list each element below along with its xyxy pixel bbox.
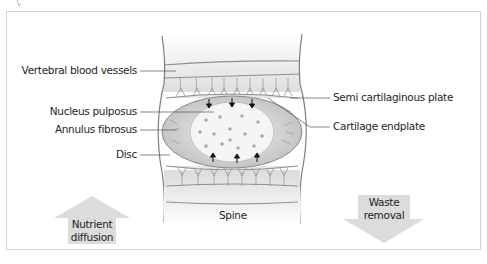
label-semi-cartilaginous-plate: Semi cartilaginous plate — [333, 91, 453, 103]
label-vertebral-blood-vessels: Vertebral blood vessels — [22, 64, 137, 76]
waste-line1: Waste — [354, 196, 414, 209]
label-annulus-fibrosus: Annulus fibrosus — [55, 123, 137, 135]
label-spine: Spine — [219, 209, 247, 221]
label-disc: Disc — [116, 148, 137, 160]
waste-removal-text: Waste removal — [354, 196, 414, 222]
nutrient-diffusion-text: Nutrient diffusion — [62, 218, 122, 244]
label-cartilage-endplate: Cartilage endplate — [333, 120, 425, 132]
upper-vertebra — [162, 34, 302, 92]
nutrient-line2: diffusion — [62, 231, 122, 244]
waste-line2: removal — [354, 209, 414, 222]
nucleus-pulposus-shape — [190, 102, 274, 162]
label-nucleus-pulposus: Nucleus pulposus — [50, 105, 137, 117]
nutrient-line1: Nutrient — [62, 218, 122, 231]
